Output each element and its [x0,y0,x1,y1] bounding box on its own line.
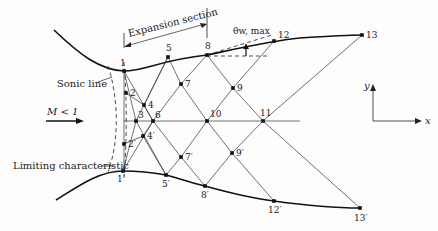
grid-point-label: 5′ [162,179,170,189]
grid-point-label: 9 [237,83,243,93]
grid-point-label: 4 [148,100,154,110]
grid-point-label: 8′ [201,190,209,200]
grid-point-label: 13 [366,30,378,40]
grid-point-1 [122,69,126,73]
grid-point-label: 13′ [354,213,368,223]
flow-arrow-icon [76,118,84,124]
grid-point-label: 7 [185,79,191,89]
grid-point-11 [261,119,265,123]
limiting-characteristic-line [108,66,116,172]
grid-point-5′ [164,173,168,177]
grid-point-label: 1 [120,58,126,68]
theta-annotation: θw, max [207,26,272,56]
grid-point-9 [231,86,235,90]
grid-point-8 [205,53,209,57]
diagram-canvas: Expansion section θw, max Sonic line Lim… [0,0,438,231]
grid-points: 123456789101112131′2′4′5′7′8′9′12′13′ [117,30,378,223]
grid-point-label: 4′ [147,131,155,141]
grid-point-label: 2 [130,88,136,98]
grid-point-12 [272,39,276,43]
grid-point-label: 6 [155,110,161,120]
grid-point-label: 10 [210,109,222,119]
grid-point-13 [360,33,364,37]
grid-point-label: 12 [278,30,289,40]
grid-point-13′ [358,206,362,210]
grid-point-7 [179,82,183,86]
sonic-line-label: Sonic line [57,78,107,89]
grid-point-9′ [230,151,234,155]
grid-point-2′ [122,142,126,146]
theta-label: θw, max [233,26,270,36]
limiting-characteristic-label: Limiting characteristic [13,160,129,171]
svg-text:y: y [363,80,370,91]
grid-point-8′ [203,184,207,188]
grid-point-10 [205,119,209,123]
grid-point-label: 7′ [185,152,193,162]
grid-point-1′ [121,169,125,173]
grid-point-label: 2′ [128,139,136,149]
expansion-section-label: Expansion section [127,6,220,39]
mach-label: M < 1 [46,106,78,117]
grid-point-12′ [272,199,276,203]
grid-point-4 [142,103,146,107]
nozzle-characteristic-diagram: Expansion section θw, max Sonic line Lim… [0,0,438,231]
grid-point-label: 8 [205,41,211,51]
grid-point-label: 12′ [268,205,282,215]
grid-point-7′ [179,155,183,159]
grid-point-label: 1′ [117,174,125,184]
grid-point-4′ [141,134,145,138]
svg-text:x: x [425,115,431,126]
grid-point-2 [124,91,128,95]
axes-indicator: y x [363,80,431,126]
grid-point-5 [166,55,170,59]
grid-point-label: 3 [138,110,144,120]
grid-point-label: 9′ [236,148,244,158]
grid-point-label: 5 [166,43,172,53]
grid-point-label: 11 [260,108,271,118]
